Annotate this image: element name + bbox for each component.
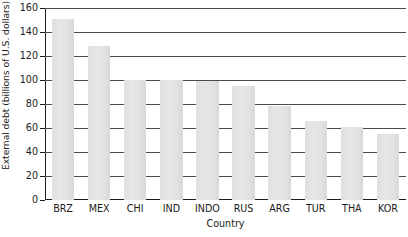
- y-axis-title: External debt (billions of U.S. dollars): [0, 0, 14, 204]
- bar-ind: [160, 80, 182, 200]
- bar-indo: [196, 81, 218, 200]
- x-axis-tick-label-tha: THA: [334, 203, 370, 214]
- y-axis-tick-label: 120: [20, 51, 38, 61]
- y-axis-tick-label: 60: [26, 123, 38, 133]
- x-axis-tick-label-arg: ARG: [262, 203, 298, 214]
- bar-brz: [52, 19, 74, 200]
- y-axis-tick-label: 140: [20, 27, 38, 37]
- x-axis-tick-label-indo: INDO: [189, 203, 225, 214]
- bar-chi: [124, 80, 146, 200]
- bars-group: [45, 8, 406, 200]
- x-axis-tick-label-chi: CHI: [117, 203, 153, 214]
- bar-arg: [268, 106, 290, 200]
- y-axis-tick-label: 0: [32, 195, 38, 205]
- bar-tha: [341, 127, 363, 200]
- x-axis-tick-label-mex: MEX: [81, 203, 117, 214]
- y-axis-tick-label: 20: [26, 171, 38, 181]
- x-axis-tick-label-kor: KOR: [370, 203, 406, 214]
- plot-area: [45, 8, 406, 200]
- x-axis-tick-label-rus: RUS: [226, 203, 262, 214]
- x-axis-tick-label-tur: TUR: [298, 203, 334, 214]
- x-axis-title: Country: [45, 218, 406, 229]
- bar-tur: [305, 121, 327, 200]
- bar-rus: [232, 86, 254, 200]
- y-axis-tick-label: 100: [20, 75, 38, 85]
- y-axis-tick-label: 80: [26, 99, 38, 109]
- bar-chart-figure: External debt (billions of U.S. dollars)…: [0, 0, 408, 237]
- y-axis-tick-label: 160: [20, 3, 38, 13]
- bar-kor: [377, 134, 399, 200]
- bar-mex: [88, 46, 110, 200]
- x-axis-tick-label-brz: BRZ: [45, 203, 81, 214]
- y-axis-tick-label: 40: [26, 147, 38, 157]
- x-axis-tick-label-ind: IND: [153, 203, 189, 214]
